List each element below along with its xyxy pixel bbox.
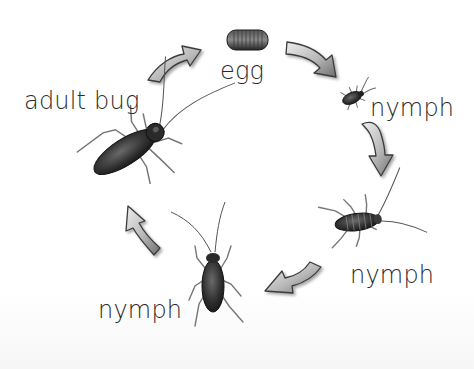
arrow-nymph2-to-nymph3-icon — [265, 262, 321, 293]
stage-label-nymph-1: nymph — [370, 96, 454, 120]
egg-icon — [227, 30, 268, 50]
arrow-nymph1-to-nymph2-icon — [362, 122, 393, 176]
stage-label-adult: adult bug — [24, 89, 140, 113]
stage-label-nymph-2: nymph — [350, 263, 434, 287]
diagram-artwork — [0, 0, 474, 369]
arrow-egg-to-nymph-icon — [286, 42, 336, 77]
stage-label-nymph-3: nymph — [98, 298, 182, 322]
life-cycle-diagram: egg nymph nymph nymph adult bug — [0, 0, 474, 369]
arrow-nymph3-to-adult-icon — [126, 206, 160, 255]
nymph-medium-icon — [315, 165, 428, 251]
stage-label-egg: egg — [220, 59, 264, 83]
arrow-adult-to-egg-icon — [148, 46, 201, 82]
